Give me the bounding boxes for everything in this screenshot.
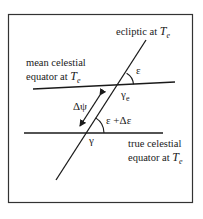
epsilon-plus-delta-epsilon-symbol: ε +Δε — [106, 114, 131, 126]
true-equator-label-line2: equator at Te — [128, 151, 183, 168]
mean-equator-label-text: equator at — [26, 71, 70, 82]
mean-equator-label-sub: e — [77, 76, 81, 85]
true-equator-label-sub: e — [179, 157, 183, 166]
mean-equator-label-line1: mean celestial — [26, 57, 86, 69]
ecliptic-label-text: ecliptic at — [116, 26, 160, 37]
ecliptic-label: ecliptic at Te — [116, 25, 170, 42]
ecliptic-label-sub: e — [166, 31, 170, 40]
gamma-symbol: γ — [89, 134, 94, 146]
true-equator-label-var: T — [172, 150, 179, 164]
delta-psi-symbol: Δψ — [73, 100, 87, 112]
diagram-frame — [9, 15, 193, 203]
epsilon-symbol: ε — [136, 64, 141, 76]
epsilon-plus-delta-epsilon-arc — [96, 118, 104, 133]
true-equator-label-text: equator at — [128, 152, 172, 163]
mean-equator-label-line2: equator at Te — [26, 70, 81, 87]
gamma-e-symbol: γe — [121, 88, 129, 105]
gamma-e-sub: e — [126, 94, 130, 103]
mean-equator-label-var: T — [70, 69, 77, 83]
epsilon-angle-arc — [127, 73, 134, 84]
nutation-diagram — [0, 0, 203, 219]
true-equator-label-line1: true celestial — [128, 138, 181, 150]
